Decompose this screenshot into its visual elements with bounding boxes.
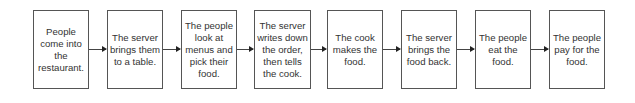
step-4-box: The server writes down the order, then t… xyxy=(254,10,311,89)
arrow-2-to-3 xyxy=(163,49,180,50)
step-5-label: The cook makes the food. xyxy=(329,32,381,68)
arrow-3-to-4 xyxy=(237,49,253,50)
step-6-label: The server brings the food back. xyxy=(403,32,455,68)
step-2-box: The server brings them to a table. xyxy=(107,10,163,89)
arrow-4-to-5 xyxy=(311,49,326,50)
restaurant-process-flowchart: People come into the restaurant. The ser… xyxy=(0,0,635,103)
step-7-box: The people eat the food. xyxy=(475,10,531,89)
step-8-label: The people pay for the food. xyxy=(551,32,603,68)
arrow-7-to-8 xyxy=(531,49,548,50)
arrow-5-to-6 xyxy=(383,49,400,50)
step-2-label: The server brings them to a table. xyxy=(109,32,161,68)
step-1-label: People come into the restaurant. xyxy=(35,26,87,74)
step-6-box: The server brings the food back. xyxy=(401,10,457,89)
arrow-1-to-2 xyxy=(89,49,106,50)
step-3-label: The people look at menus and pick their … xyxy=(183,20,235,80)
arrow-6-to-7 xyxy=(457,49,474,50)
step-3-box: The people look at menus and pick their … xyxy=(181,10,237,89)
step-4-label: The server writes down the order, then t… xyxy=(256,20,309,80)
step-7-label: The people eat the food. xyxy=(477,32,529,68)
step-8-box: The people pay for the food. xyxy=(549,10,605,89)
step-5-box: The cook makes the food. xyxy=(327,10,383,89)
step-1-box: People come into the restaurant. xyxy=(33,10,89,89)
